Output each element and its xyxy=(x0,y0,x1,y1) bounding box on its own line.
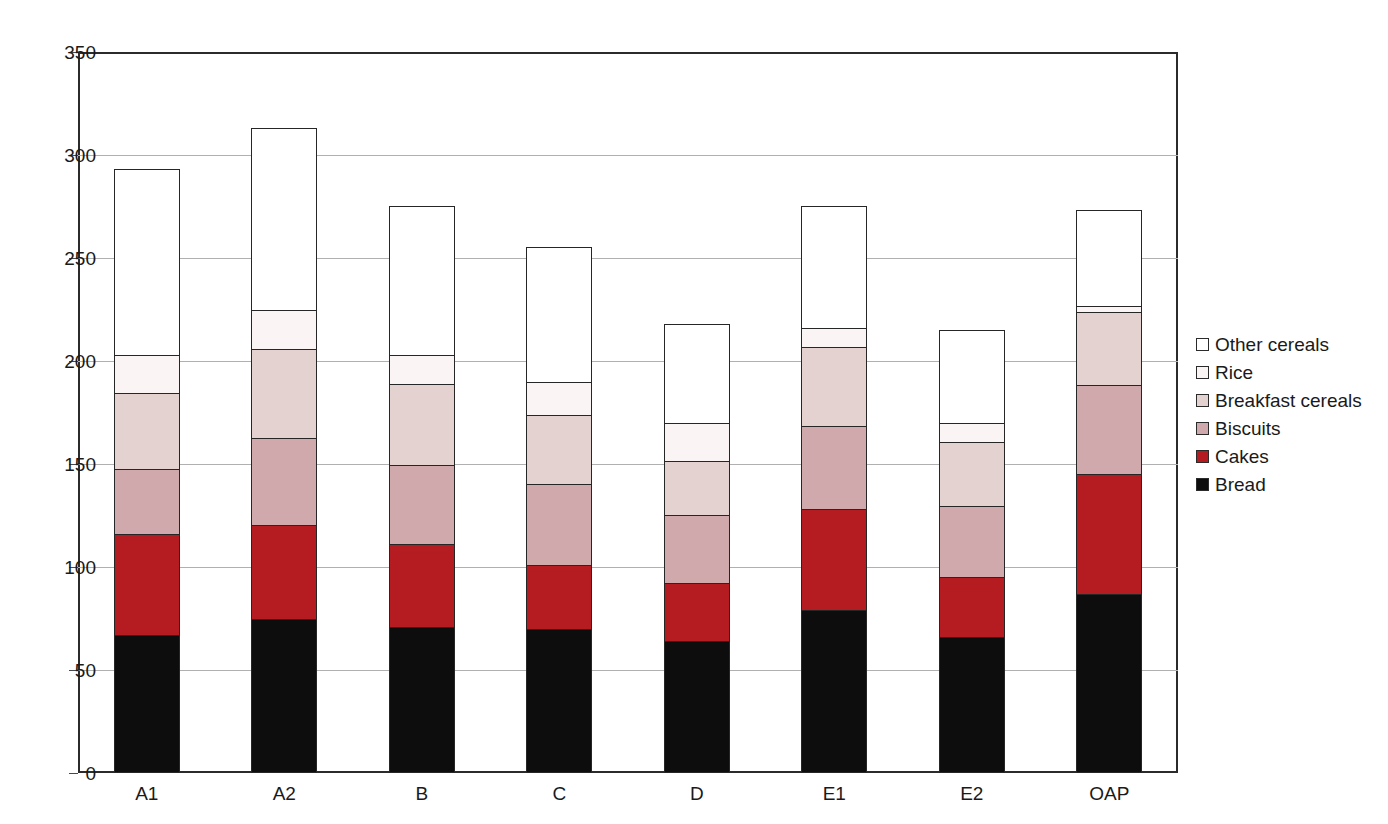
bar-segment-rice[interactable] xyxy=(526,382,592,417)
legend-swatch-icon xyxy=(1196,338,1209,351)
legend-label: Cakes xyxy=(1215,447,1269,466)
bar-segment-bread[interactable] xyxy=(526,629,592,773)
bar-segment-other-cereals[interactable] xyxy=(389,206,455,356)
bar-segment-rice[interactable] xyxy=(251,310,317,351)
legend-label: Rice xyxy=(1215,363,1253,382)
bar-group[interactable] xyxy=(251,52,317,773)
bar-stack xyxy=(389,206,455,773)
legend-swatch-icon xyxy=(1196,422,1209,435)
bar-segment-other-cereals[interactable] xyxy=(526,247,592,383)
bar-segment-bread[interactable] xyxy=(251,619,317,774)
legend-item[interactable]: Rice xyxy=(1196,360,1362,384)
bar-segment-biscuits[interactable] xyxy=(526,484,592,566)
bar-segment-cakes[interactable] xyxy=(251,525,317,620)
bar-segment-bread[interactable] xyxy=(114,635,180,773)
legend-item[interactable]: Biscuits xyxy=(1196,416,1362,440)
x-tick-label: E1 xyxy=(823,784,846,803)
bar-group[interactable] xyxy=(939,52,1005,773)
legend-swatch-icon xyxy=(1196,394,1209,407)
legend-label: Bread xyxy=(1215,475,1266,494)
bars-layer xyxy=(78,52,1178,773)
bar-segment-biscuits[interactable] xyxy=(251,438,317,527)
bar-segment-other-cereals[interactable] xyxy=(1076,210,1142,307)
bar-segment-cakes[interactable] xyxy=(389,544,455,628)
x-tick-label: E2 xyxy=(960,784,983,803)
bar-group[interactable] xyxy=(664,52,730,773)
bar-segment-rice[interactable] xyxy=(114,355,180,394)
x-tick-label: A2 xyxy=(273,784,296,803)
legend-label: Other cereals xyxy=(1215,335,1329,354)
bar-segment-cakes[interactable] xyxy=(664,583,730,643)
legend-item[interactable]: Cakes xyxy=(1196,444,1362,468)
bar-segment-rice[interactable] xyxy=(664,423,730,462)
bar-segment-cakes[interactable] xyxy=(801,509,867,612)
bar-segment-other-cereals[interactable] xyxy=(939,330,1005,425)
bar-segment-other-cereals[interactable] xyxy=(114,169,180,356)
legend-swatch-icon xyxy=(1196,450,1209,463)
bar-segment-breakfast-cereals[interactable] xyxy=(526,415,592,485)
bar-group[interactable] xyxy=(389,52,455,773)
bar-segment-other-cereals[interactable] xyxy=(664,324,730,425)
legend-swatch-icon xyxy=(1196,366,1209,379)
bar-stack xyxy=(526,247,592,773)
legend-label: Biscuits xyxy=(1215,419,1280,438)
bar-stack xyxy=(1076,210,1142,773)
bar-group[interactable] xyxy=(114,52,180,773)
bar-segment-breakfast-cereals[interactable] xyxy=(664,461,730,517)
legend: Other cerealsRiceBreakfast cerealsBiscui… xyxy=(1196,332,1362,496)
bar-group[interactable] xyxy=(526,52,592,773)
bar-segment-biscuits[interactable] xyxy=(801,426,867,510)
bar-stack xyxy=(939,330,1005,773)
bar-segment-breakfast-cereals[interactable] xyxy=(939,442,1005,508)
legend-item[interactable]: Bread xyxy=(1196,472,1362,496)
legend-swatch-icon xyxy=(1196,478,1209,491)
bar-stack xyxy=(801,206,867,773)
bar-segment-biscuits[interactable] xyxy=(114,469,180,535)
x-tick-label: OAP xyxy=(1089,784,1129,803)
legend-item[interactable]: Breakfast cereals xyxy=(1196,388,1362,412)
x-tick-label: A1 xyxy=(135,784,158,803)
bar-segment-rice[interactable] xyxy=(389,355,455,386)
stacked-bar-chart: 050100150200250300350 A1A2BCDE1E2OAP Oth… xyxy=(0,0,1388,824)
bar-segment-rice[interactable] xyxy=(939,423,1005,444)
bar-segment-breakfast-cereals[interactable] xyxy=(251,349,317,440)
bar-segment-other-cereals[interactable] xyxy=(251,128,317,311)
x-tick-label: D xyxy=(690,784,704,803)
bar-segment-bread[interactable] xyxy=(664,641,730,773)
bar-segment-breakfast-cereals[interactable] xyxy=(389,384,455,466)
bar-stack xyxy=(114,169,180,773)
bar-segment-cakes[interactable] xyxy=(1076,474,1142,596)
bar-segment-rice[interactable] xyxy=(801,328,867,349)
x-tick-label: C xyxy=(552,784,566,803)
legend-label: Breakfast cereals xyxy=(1215,391,1362,410)
bar-group[interactable] xyxy=(801,52,867,773)
legend-item[interactable]: Other cereals xyxy=(1196,332,1362,356)
bar-stack xyxy=(664,324,730,773)
bar-segment-biscuits[interactable] xyxy=(1076,385,1142,476)
bar-segment-cakes[interactable] xyxy=(526,565,592,631)
bar-segment-bread[interactable] xyxy=(939,637,1005,773)
bar-segment-breakfast-cereals[interactable] xyxy=(1076,312,1142,386)
bar-segment-biscuits[interactable] xyxy=(939,506,1005,578)
x-tick-label: B xyxy=(415,784,428,803)
bar-segment-bread[interactable] xyxy=(389,627,455,773)
bar-segment-biscuits[interactable] xyxy=(664,515,730,585)
bar-group[interactable] xyxy=(1076,52,1142,773)
bar-segment-breakfast-cereals[interactable] xyxy=(801,347,867,427)
bar-segment-bread[interactable] xyxy=(1076,594,1142,773)
bar-segment-cakes[interactable] xyxy=(114,534,180,637)
bar-segment-other-cereals[interactable] xyxy=(801,206,867,330)
bar-segment-biscuits[interactable] xyxy=(389,465,455,545)
bar-segment-cakes[interactable] xyxy=(939,577,1005,639)
bar-stack xyxy=(251,128,317,773)
bar-segment-bread[interactable] xyxy=(801,610,867,773)
bar-segment-breakfast-cereals[interactable] xyxy=(114,393,180,471)
